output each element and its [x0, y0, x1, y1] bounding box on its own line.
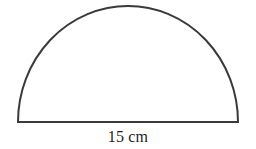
diameter-label: 15 cm: [0, 128, 256, 146]
semicircle-figure: [0, 0, 256, 149]
